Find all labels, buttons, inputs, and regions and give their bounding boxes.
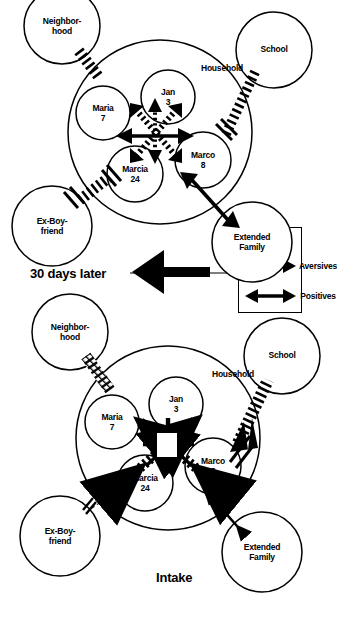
node-label-jan-30d: Jan3 bbox=[161, 88, 175, 107]
node-label-maria-30d: Maria7 bbox=[92, 104, 113, 123]
tie-neighborhood-household-30d bbox=[78, 50, 98, 76]
tie-school-marco-30d bbox=[216, 70, 256, 140]
panel-title-thirty-days-later: 30 days later bbox=[30, 266, 106, 281]
node-ex-boyfriend-30d bbox=[12, 186, 92, 266]
node-marcia-30d bbox=[107, 146, 163, 202]
node-jan-30d bbox=[141, 70, 195, 124]
node-school-30d bbox=[236, 12, 312, 88]
node-marco-30d bbox=[175, 132, 231, 188]
node-maria-30d bbox=[76, 86, 130, 140]
tie-cluster-30d bbox=[116, 98, 194, 164]
node-label-neighborhood-30d: Neighbor- hood bbox=[43, 17, 81, 36]
node-neighborhood-30d bbox=[24, 0, 100, 64]
household-label-30d: Household bbox=[201, 63, 243, 73]
node-label-ex-boyfriend-30d: Ex-Boy- friend bbox=[37, 217, 68, 236]
tie-exboyfriend-marcia-30d bbox=[64, 165, 121, 208]
node-label-extended-family-30d: Extended Family bbox=[234, 233, 271, 252]
node-extended-family-30d bbox=[212, 202, 292, 282]
node-label-marco-30d: Marco8 bbox=[191, 151, 215, 170]
node-label-marcia-30d: Marcia24 bbox=[122, 165, 148, 184]
tie-extendedfamily-household-30d bbox=[180, 172, 240, 228]
node-label-school-30d: School bbox=[260, 45, 287, 55]
